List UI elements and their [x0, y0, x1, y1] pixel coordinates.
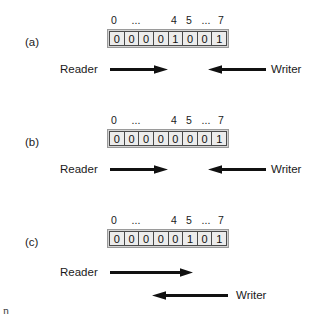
bit-cell: 1	[211, 131, 227, 146]
bit-cell: 0	[124, 131, 140, 146]
panel-c-index-5: 5	[182, 214, 196, 226]
panel-c-index-dot2: ...	[199, 214, 213, 226]
panel-c-reader-arrow-right-icon	[110, 267, 193, 278]
bit-cell: 0	[138, 31, 154, 46]
panel-b-reader-label: Reader	[60, 163, 98, 176]
bit-cell: 0	[109, 31, 125, 46]
panel-a-index-7: 7	[214, 14, 228, 26]
panel-b-index-dot2: ...	[199, 114, 213, 126]
bit-cell: 1	[168, 31, 184, 46]
bit-cell: 0	[168, 231, 184, 246]
bit-cell: 0	[182, 131, 198, 146]
panel-a-index-dot1: ...	[129, 14, 143, 26]
panel-a-reader-label: Reader	[60, 63, 98, 76]
panel-c-cells: 0 0 0 0 0 1 0 1	[107, 229, 229, 248]
bit-cell: 0	[182, 31, 198, 46]
corner-artifact-text: n	[3, 305, 17, 314]
panel-b-index-5: 5	[182, 114, 196, 126]
panel-b-writer-label: Writer	[271, 163, 301, 176]
panel-c-writer-arrow-left-icon	[152, 290, 228, 301]
bit-cell: 0	[168, 131, 184, 146]
panel-b-bit-array: 0 ... 4 5 ... 7 0 0 0 0 0 0 0 1	[107, 114, 229, 148]
bit-cell: 0	[197, 31, 213, 46]
bit-cell: 0	[153, 131, 169, 146]
bit-cell: 1	[211, 231, 227, 246]
panel-b-index-7: 7	[214, 114, 228, 126]
panel-c-index-7: 7	[214, 214, 228, 226]
bit-cell: 1	[211, 31, 227, 46]
panel-b-index-4: 4	[167, 114, 181, 126]
panel-a-writer-arrow-left-icon	[208, 64, 266, 75]
panel-a: (a) 0 ... 4 5 ... 7 0 0 0 0 1 0 0 1 Read…	[0, 14, 324, 104]
panel-c: (c) 0 ... 4 5 ... 7 0 0 0 0 0 1 0 1 Read…	[0, 214, 324, 319]
panel-c-index-dot1: ...	[129, 214, 143, 226]
panel-c-index-0: 0	[107, 214, 121, 226]
bit-cell: 0	[109, 231, 125, 246]
bit-cell: 0	[138, 131, 154, 146]
panel-a-index-row: 0 ... 4 5 ... 7	[107, 14, 229, 28]
figure-canvas: (a) 0 ... 4 5 ... 7 0 0 0 0 1 0 0 1 Read…	[0, 0, 324, 322]
panel-a-index-dot2: ...	[199, 14, 213, 26]
panel-a-writer-label: Writer	[271, 63, 301, 76]
bit-cell: 0	[124, 231, 140, 246]
bit-cell: 0	[197, 231, 213, 246]
panel-b-index-dot1: ...	[129, 114, 143, 126]
panel-a-cells: 0 0 0 0 1 0 0 1	[107, 29, 229, 48]
panel-b-index-row: 0 ... 4 5 ... 7	[107, 114, 229, 128]
bit-cell: 1	[182, 231, 198, 246]
panel-c-writer-label: Writer	[236, 289, 266, 302]
panel-c-label: (c)	[25, 236, 38, 248]
panel-a-index-0: 0	[107, 14, 121, 26]
panel-b: (b) 0 ... 4 5 ... 7 0 0 0 0 0 0 0 1 Read…	[0, 114, 324, 204]
panel-a-index-5: 5	[182, 14, 196, 26]
bit-cell: 0	[124, 31, 140, 46]
panel-c-index-4: 4	[167, 214, 181, 226]
bit-cell: 0	[153, 31, 169, 46]
panel-b-label: (b)	[25, 136, 39, 148]
panel-a-label: (a)	[25, 36, 39, 48]
panel-c-reader-label: Reader	[60, 266, 98, 279]
bit-cell: 0	[197, 131, 213, 146]
panel-b-cells: 0 0 0 0 0 0 0 1	[107, 129, 229, 148]
panel-c-bit-array: 0 ... 4 5 ... 7 0 0 0 0 0 1 0 1	[107, 214, 229, 248]
bit-cell: 0	[109, 131, 125, 146]
panel-a-index-4: 4	[167, 14, 181, 26]
panel-a-bit-array: 0 ... 4 5 ... 7 0 0 0 0 1 0 0 1	[107, 14, 229, 48]
panel-a-reader-arrow-right-icon	[110, 64, 168, 75]
panel-b-index-0: 0	[107, 114, 121, 126]
bit-cell: 0	[153, 231, 169, 246]
bit-cell: 0	[138, 231, 154, 246]
panel-c-index-row: 0 ... 4 5 ... 7	[107, 214, 229, 228]
panel-b-writer-arrow-left-icon	[208, 164, 266, 175]
panel-b-reader-arrow-right-icon	[110, 164, 168, 175]
